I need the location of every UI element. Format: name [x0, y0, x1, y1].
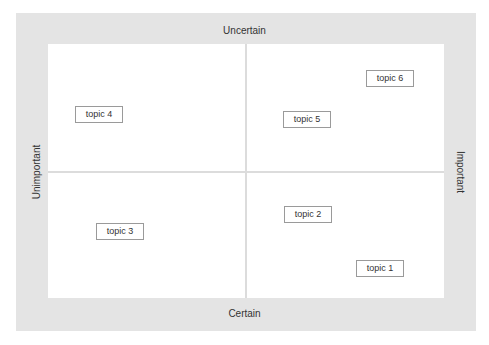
topic-box-6[interactable]: topic 6	[366, 70, 414, 87]
axis-label-certain: Certain	[0, 308, 489, 319]
axis-label-uncertain: Uncertain	[0, 25, 489, 36]
topic-box-5[interactable]: topic 5	[283, 111, 331, 128]
axis-label-unimportant: Unimportant	[31, 145, 42, 199]
topic-box-2[interactable]: topic 2	[284, 206, 332, 223]
topic-box-3[interactable]: topic 3	[96, 223, 144, 240]
topic-box-4[interactable]: topic 4	[75, 106, 123, 123]
horizontal-divider	[48, 171, 444, 173]
topic-box-1[interactable]: topic 1	[356, 260, 404, 277]
axis-label-important: Important	[455, 151, 466, 193]
